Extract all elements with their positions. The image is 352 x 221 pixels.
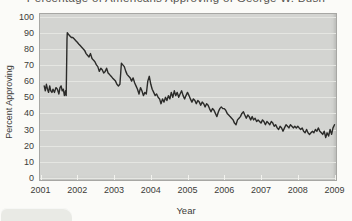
approval-chart-figure: Percentage of Americans Approving of Geo…: [0, 0, 352, 221]
x-axis-tick-label: 2005: [177, 185, 197, 196]
x-axis-tick-labels: 200120022003200420052006200720082009: [0, 0, 352, 221]
x-axis-tick-label: 2007: [251, 185, 271, 196]
x-axis-tick-label: 2006: [214, 185, 234, 196]
x-axis-tick-label: 2008: [288, 185, 308, 196]
x-axis-tick-label: 2004: [141, 185, 161, 196]
corner-tab: [1, 208, 72, 221]
x-axis-tick-label: 2003: [104, 185, 124, 196]
x-axis-title: Year: [176, 205, 195, 216]
x-axis-tick-label: 2002: [67, 185, 87, 196]
x-axis-tick-label: 2001: [30, 185, 50, 196]
x-axis-tick-label: 2009: [324, 185, 344, 196]
